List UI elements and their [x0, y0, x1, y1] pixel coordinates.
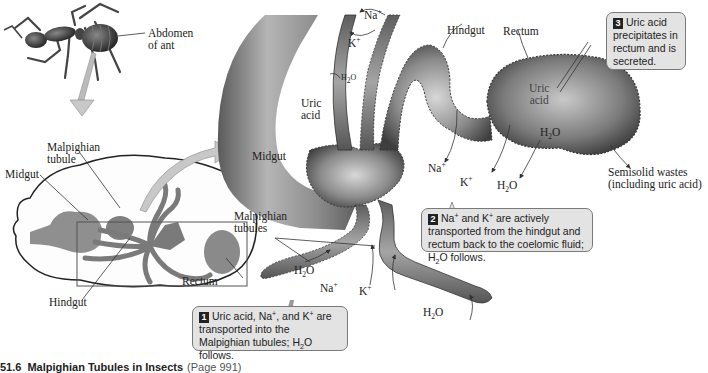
label-hindgut-overview: Hindgut [49, 296, 87, 308]
label-line: of ant [148, 39, 193, 51]
symbol: O [552, 126, 560, 138]
label-line: tubule [47, 153, 100, 165]
symbol: O [509, 179, 517, 191]
step-badge-2: 2 [428, 214, 438, 225]
label-na-bottom: Na+ [320, 282, 338, 294]
charge: + [367, 283, 371, 292]
callout-text: and K [459, 212, 489, 224]
label-k-top: K+ [348, 37, 361, 49]
diagram-artwork [0, 0, 708, 373]
label-line: tubules [234, 222, 287, 234]
symbol: Na [428, 162, 441, 174]
symbol: O [306, 264, 314, 276]
label-rectum-overview: Rectum [182, 275, 218, 287]
label-line: Malpighian [234, 210, 287, 222]
label-h2o-rectum: H2O [540, 126, 560, 138]
label-line: Uric [529, 82, 549, 94]
label-midgut-overview: Midgut [5, 168, 39, 180]
label-h2o-top: H2O [341, 72, 356, 84]
charge: + [377, 7, 381, 16]
figure-number: 51.6 [0, 361, 21, 373]
label-h2o-tubule: H2O [294, 264, 314, 276]
charge: + [356, 35, 360, 44]
label-semisolid-wastes: Semisolid wastes (including uric acid) [608, 166, 702, 190]
figure-caption: 51.6Malpighian Tubules in Insects(Page 9… [0, 361, 242, 373]
label-line: Abdomen [148, 27, 193, 39]
symbol: Na [364, 9, 377, 21]
step-badge-3: 3 [613, 18, 623, 29]
label-line: (including uric acid) [608, 178, 702, 190]
label-line: acid [301, 109, 321, 121]
charge: + [441, 160, 445, 169]
label-na-mid: Na+ [428, 162, 446, 174]
step-badge-1: 1 [199, 312, 209, 323]
label-k-bottom: K+ [359, 285, 372, 297]
ant-illustration [4, 4, 145, 80]
callout-text: Uric acid, Na [212, 310, 272, 322]
callout-text: O follows. [440, 251, 486, 263]
down-arrow [70, 100, 94, 116]
label-hindgut-detail: Hindgut [447, 24, 485, 36]
callout-text: , and K [276, 310, 309, 322]
label-line: acid [529, 94, 549, 106]
symbol: Na [320, 282, 333, 294]
callout-step-2: 2Na+ and K+ are actively transported fro… [421, 208, 593, 252]
label-malpighian-tubules: Malpighian tubules [234, 210, 287, 234]
label-malpighian-tubule: Malpighian tubule [47, 141, 100, 165]
symbol: O [351, 73, 357, 82]
label-abdomen-of-ant: Abdomen of ant [148, 27, 193, 51]
callout-step-1: 1Uric acid, Na+, and K+ are transported … [192, 306, 348, 351]
label-line: Malpighian [47, 141, 100, 153]
figure-page-ref: (Page 991) [187, 361, 241, 373]
label-h2o-bottom: H2O [423, 306, 443, 318]
label-line: Uric [301, 97, 321, 109]
symbol: O [435, 306, 443, 318]
charge: + [468, 174, 472, 183]
label-na-top: Na+ [364, 9, 382, 21]
callout-step-3: 3Uric acid precipitates in rectum and is… [606, 12, 686, 70]
label-rectum-detail: Rectum [503, 25, 539, 37]
label-line: Semisolid wastes [608, 166, 702, 178]
label-midgut-detail: Midgut [252, 150, 286, 162]
label-uric-acid-tubule: Uric acid [301, 97, 321, 121]
charge: + [333, 280, 337, 289]
figure-title: Malpighian Tubules in Insects [27, 361, 183, 373]
callout-text: Na [441, 212, 454, 224]
label-k-mid: K+ [460, 176, 473, 188]
label-uric-acid-rectum: Uric acid [529, 82, 549, 106]
label-h2o-mid: H2O [497, 179, 517, 191]
